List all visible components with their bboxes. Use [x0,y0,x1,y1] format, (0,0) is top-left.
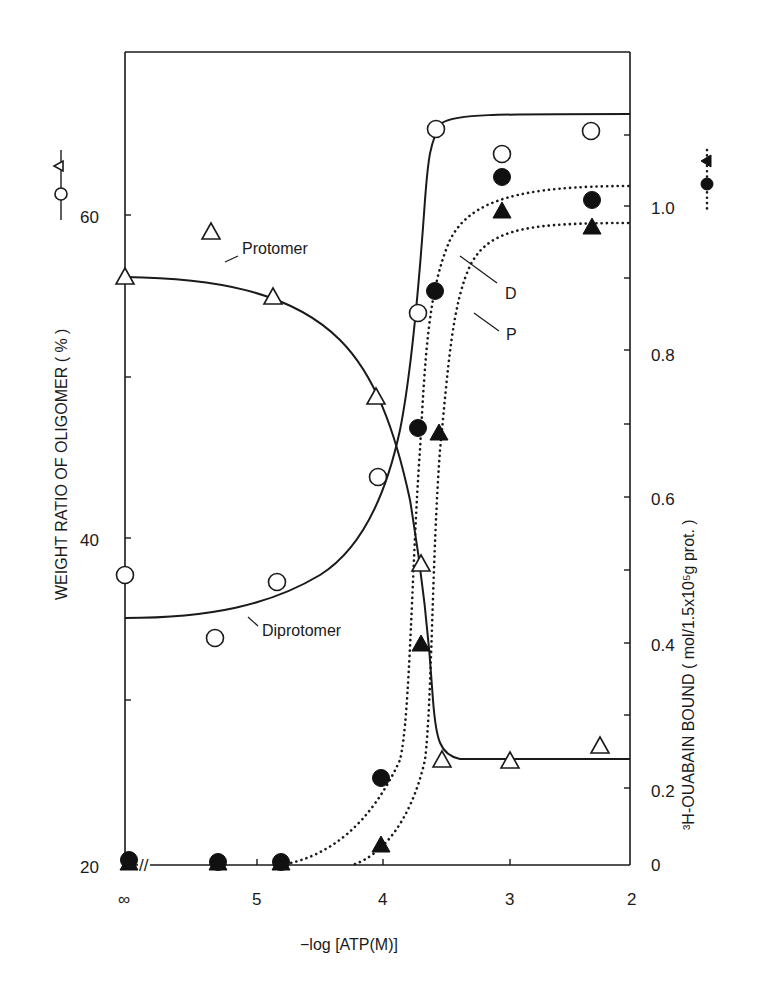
y-right-tick-0: 0 [651,856,660,875]
x-axis-title: −log [ATP(M)] [300,936,398,953]
ouabain-d-point [427,283,444,300]
diprotomer-point [583,123,600,140]
y-left-tick-40: 40 [80,531,99,550]
protomer-point [202,223,220,239]
chart: // 60 40 20 1.0 0.8 0.6 0.4 0.2 0 ∞ 5 4 … [0,0,773,996]
diprotomer-point [269,574,286,591]
ouabain-p-point [493,202,511,218]
diprotomer-point [428,121,445,138]
x-tick-infinity: ∞ [118,890,130,909]
x-axis-break: // [139,856,149,875]
y-right-tick-1-0: 1.0 [651,199,675,218]
x-tick-3: 3 [505,890,514,909]
left-axis-title: WEIGHT RATIO OF OLIGOMER ( % ) [53,329,70,600]
y-right-tick-0-4: 0.4 [651,636,675,655]
x-tick-4: 4 [378,890,387,909]
left-axis-legend-glyph [54,150,67,220]
diprotomer-point [207,630,224,647]
diprotomer-pointer [248,617,258,626]
diprotomer-point [410,305,427,322]
protomer-curve [125,277,630,759]
diprotomer-point [494,146,511,163]
y-left-tick-20: 20 [80,858,99,877]
p-curve [355,223,630,864]
y-right-tick-0-6: 0.6 [651,490,675,509]
plot-frame [125,52,630,865]
y-right-tick-0-8: 0.8 [651,346,675,365]
p-pointer [474,313,499,331]
diprotomer-point [117,567,134,584]
ouabain-d-point [210,854,227,871]
protomer-point [367,388,385,404]
ouabain-d-point [373,770,390,787]
ouabain-p-point [430,424,448,440]
annotation-protomer: Protomer [242,240,308,257]
ouabain-d-point [584,192,601,209]
ouabain-d-point [410,420,427,437]
annotation-d: D [505,285,517,302]
ouabain-d-point [273,854,290,871]
diprotomer-point [370,469,387,486]
ouabain-p-point [372,836,390,852]
x-tick-5: 5 [252,890,261,909]
right-axis-ticks [624,135,630,788]
ouabain-p-point [583,218,601,234]
protomer-point [591,737,609,753]
d-curve [286,186,630,864]
protomer-point [412,555,430,571]
annotation-p: P [506,326,517,343]
ouabain-d-point [494,169,511,186]
protomer-point [116,268,134,284]
left-axis-ticks [125,215,131,700]
protomer-pointer [225,256,238,262]
x-axis-ticks [257,859,510,865]
right-axis-legend-glyph [701,150,713,210]
x-tick-2: 2 [627,890,636,909]
annotation-diprotomer: Diprotomer [262,622,342,639]
y-right-tick-0-2: 0.2 [651,782,675,801]
right-axis-title: ³H-OUABAIN BOUND ( mol/1.5x10⁵g prot. ) [680,519,697,830]
ouabain-d-point [121,852,138,869]
y-left-tick-60: 60 [80,208,99,227]
